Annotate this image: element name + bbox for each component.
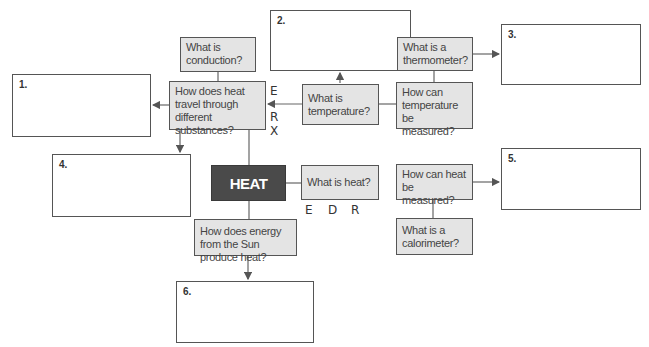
answer-box-label: 2. [277, 15, 285, 26]
answer-box-label: 4. [59, 159, 67, 170]
annotation-letter: R [351, 203, 359, 217]
question-temperature: What is temperature? [302, 84, 379, 125]
question-measure-heat: How can heat be measured? [396, 164, 473, 200]
annotation-letter: D [328, 203, 337, 217]
question-calorimeter: What is a calorimeter? [396, 218, 473, 255]
answer-box-5[interactable]: 5. [501, 148, 641, 210]
answer-box-1[interactable]: 1. [12, 74, 151, 137]
question-sun-energy: How does energy from the Sun produce hea… [194, 219, 297, 256]
answer-box-6[interactable]: 6. [176, 281, 314, 343]
answer-box-3[interactable]: 3. [501, 24, 641, 85]
answer-box-2[interactable]: 2. [270, 10, 411, 71]
question-what-is-heat: What is heat? [301, 165, 379, 200]
answer-box-label: 1. [19, 79, 27, 90]
question-conduction: What is conduction? [180, 37, 256, 72]
question-heat-travel: How does heat travel through different s… [169, 81, 266, 130]
annotation-letter: X [270, 124, 278, 138]
annotation-letter: R [270, 110, 278, 124]
answer-box-label: 5. [508, 153, 516, 164]
answer-box-label: 6. [183, 286, 191, 297]
answer-box-label: 3. [508, 29, 516, 40]
answer-box-4[interactable]: 4. [52, 154, 191, 217]
question-thermometer: What is a thermometer? [397, 37, 473, 71]
annotation-letter: E [305, 203, 313, 217]
annotation-letter: E [270, 84, 278, 98]
center-topic: HEAT [211, 165, 286, 201]
question-measure-temperature: How can temperature be measured? [396, 82, 473, 129]
